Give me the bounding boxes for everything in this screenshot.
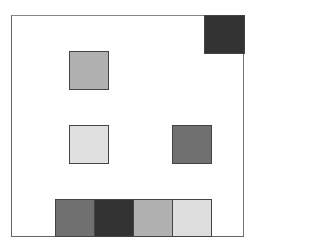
square-top-right	[204, 15, 245, 54]
square-middle-left	[69, 125, 109, 164]
square-middle-right	[172, 125, 212, 164]
square-upper-left	[69, 51, 109, 90]
square-bottom-2	[94, 199, 134, 237]
square-bottom-3	[133, 199, 173, 237]
square-bottom-4	[172, 199, 212, 237]
square-bottom-1	[55, 199, 95, 237]
